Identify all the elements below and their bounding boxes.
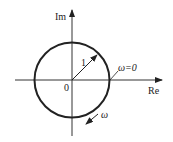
radius-label: 1 bbox=[81, 57, 86, 68]
omega-direction-label: ω bbox=[101, 109, 108, 120]
real-axis-label: Re bbox=[148, 85, 160, 96]
omega-zero-leader bbox=[110, 71, 118, 80]
unit-circle-diagram: Im Re 0 1 ω=0 ω bbox=[0, 0, 173, 142]
imaginary-axis-label: Im bbox=[55, 11, 66, 22]
origin-label: 0 bbox=[64, 82, 69, 93]
omega-zero-label: ω=0 bbox=[118, 62, 137, 73]
omega-direction-arrow bbox=[86, 114, 98, 124]
